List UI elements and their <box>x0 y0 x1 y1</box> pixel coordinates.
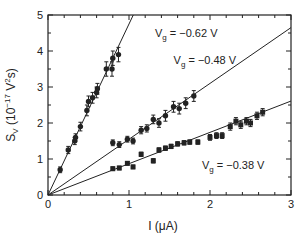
data-point <box>183 101 188 106</box>
data-point <box>139 152 144 157</box>
data-point <box>57 167 62 172</box>
data-point <box>220 133 225 138</box>
y-tick-label: 5 <box>37 9 43 21</box>
data-point <box>156 120 161 125</box>
data-point <box>169 144 174 149</box>
data-point <box>73 135 78 140</box>
x-axis-label: I (μA) <box>148 219 178 233</box>
data-points <box>57 47 265 172</box>
data-point <box>175 141 180 146</box>
data-point <box>116 52 121 57</box>
data-point <box>156 148 161 153</box>
data-point <box>187 140 192 145</box>
data-point <box>125 161 130 166</box>
data-point <box>177 106 182 111</box>
x-tick-label: 2 <box>207 198 213 210</box>
data-point <box>138 128 143 133</box>
y-tick-label: 1 <box>37 153 43 165</box>
data-point <box>110 166 115 171</box>
y-tick-label: 4 <box>37 45 43 57</box>
data-point <box>238 122 243 127</box>
data-point <box>110 56 115 61</box>
data-point <box>151 158 156 163</box>
data-point <box>117 166 122 171</box>
y-axis-label: SV (10−17 V2s) <box>3 68 20 141</box>
data-point <box>117 142 122 147</box>
data-point <box>109 66 114 71</box>
data-point <box>90 95 95 100</box>
data-point <box>131 164 136 169</box>
data-point <box>78 124 83 129</box>
y-tick-label: 0 <box>37 189 43 201</box>
data-point <box>228 124 233 129</box>
data-point <box>66 147 71 152</box>
data-point <box>110 140 115 145</box>
x-tick-label: 3 <box>288 198 294 210</box>
data-point <box>151 117 156 122</box>
data-point <box>248 121 253 126</box>
data-point <box>171 104 176 109</box>
series-label: Vg = −0.38 V <box>202 159 265 174</box>
data-point <box>208 135 213 140</box>
series-label: Vg = −0.62 V <box>155 27 218 42</box>
series-label: Vg = −0.48 V <box>174 54 237 69</box>
data-point <box>254 113 259 118</box>
data-point <box>260 110 265 115</box>
data-point <box>182 140 187 145</box>
data-point <box>214 133 219 138</box>
y-tick-label: 2 <box>37 117 43 129</box>
data-point <box>84 108 89 113</box>
data-point <box>195 140 200 145</box>
data-point <box>163 146 168 151</box>
data-point <box>130 138 135 143</box>
data-point <box>163 113 168 118</box>
data-point <box>191 93 196 98</box>
x-tick-label: 0 <box>45 198 51 210</box>
y-tick-label: 3 <box>37 81 43 93</box>
data-point <box>125 137 130 142</box>
x-tick-label: 1 <box>126 198 132 210</box>
data-point <box>144 126 149 131</box>
noise-vs-current-chart: 0123012345 Vg = −0.62 VVg = −0.48 VVg = … <box>0 0 306 240</box>
data-point <box>95 86 100 91</box>
data-point <box>86 99 91 104</box>
series-annotations: Vg = −0.62 VVg = −0.48 VVg = −0.38 V <box>155 27 265 174</box>
data-point <box>104 66 109 71</box>
data-point <box>233 119 238 124</box>
